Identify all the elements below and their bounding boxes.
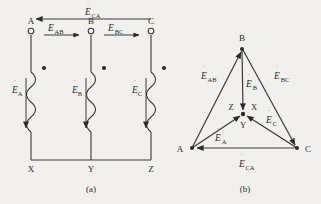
phasor-vertex-dots (190, 47, 299, 150)
polarity-dot-b (102, 66, 106, 70)
plabel-ea-sub: A (222, 138, 227, 145)
phase-branch-wires (31, 35, 151, 160)
node-label-y: Y (88, 164, 95, 174)
plabel-eab-base: E (200, 71, 207, 81)
plabel-ebc-sub: BC (281, 76, 290, 83)
plabel-eab-group: ˙ E AB (200, 64, 217, 83)
plabel-ec-group: ˙ E C (265, 108, 277, 127)
phasor-label-a: A (177, 144, 184, 154)
label-eab-sub: AB (54, 28, 64, 35)
label-eb-sub: B (78, 90, 83, 97)
vertex-dot-a (190, 146, 194, 150)
label-ea-sub: A (18, 90, 23, 97)
terminal-label-c: C (148, 16, 154, 26)
label-ebc-base: E (107, 23, 114, 33)
plabel-eab-sub: AB (207, 76, 217, 83)
node-label-x: X (28, 164, 35, 174)
terminal-c[interactable] (148, 28, 154, 34)
plabel-eb-base: E (245, 79, 252, 89)
label-eca-group: ˙ E CA (84, 0, 101, 19)
terminal-b[interactable] (88, 28, 94, 34)
vertex-dot-center (241, 112, 245, 116)
plabel-eca-group: ˙ E CA (238, 152, 255, 171)
bottom-node-labels: X Y Z (28, 164, 154, 174)
phase-emf-phasors (192, 50, 297, 148)
label-ea-group: ˙ E A (11, 78, 23, 97)
label-ec-sub: C (138, 90, 142, 97)
coil-a (27, 72, 36, 132)
plabel-ec-base: E (265, 115, 272, 125)
polarity-dot-a (42, 66, 46, 70)
plabel-eb-sub: B (253, 84, 258, 91)
coil-b (87, 72, 96, 132)
polarity-dot-c (162, 66, 166, 70)
circuit-diagram-a: A B C X Y Z ˙ E A ˙ E B (11, 0, 166, 194)
terminal-label-a: A (28, 16, 35, 26)
phasor-label-b: B (239, 33, 245, 43)
coil-c (147, 72, 156, 132)
phasor-line-emf-labels: ˙ E AB ˙ E BC ˙ E CA (200, 64, 289, 171)
plabel-eca-sub: CA (245, 164, 254, 171)
three-phase-delta-figure: A B C X Y Z ˙ E A ˙ E B (0, 0, 321, 204)
phase-emf-arrows (26, 78, 146, 128)
phasor-diagram-b: A B C Z X Y ˙ E AB ˙ E BC ˙ E C (177, 33, 311, 194)
vertex-dot-b (240, 47, 244, 51)
label-ec-group: ˙ E C (131, 78, 142, 97)
plabel-ec-sub: C (273, 120, 277, 127)
plabel-ebc-base: E (273, 71, 280, 81)
plabel-eca-base: E (238, 159, 245, 169)
plabel-ea-base: E (214, 133, 221, 143)
caption-a: (a) (86, 184, 96, 194)
plabel-ebc-group: ˙ E BC (273, 64, 289, 83)
node-label-z: Z (148, 164, 154, 174)
phasor-eb (242, 50, 243, 110)
label-eca-sub: CA (91, 12, 100, 19)
terminal-a[interactable] (28, 28, 34, 34)
center-label-y: Y (240, 120, 246, 130)
label-eca-base: E (84, 7, 91, 17)
phasor-label-c: C (305, 144, 311, 154)
plabel-eb-group: ˙ E B (245, 72, 258, 91)
phasor-phase-emf-labels: ˙ E A ˙ E B ˙ E C (214, 72, 277, 145)
vertex-dot-c (295, 146, 299, 150)
center-label-x: X (251, 102, 257, 112)
line-emf-labels-a: ˙ E CA ˙ E AB ˙ E BC (47, 0, 123, 35)
label-eab-base: E (47, 23, 54, 33)
polarity-dots (42, 66, 166, 70)
label-ebc-sub: BC (115, 28, 124, 35)
line-emf-phasors (192, 50, 297, 148)
terminals (28, 28, 154, 34)
center-label-z: Z (228, 102, 233, 112)
label-eb-group: ˙ E B (71, 78, 83, 97)
caption-b: (b) (240, 184, 251, 194)
